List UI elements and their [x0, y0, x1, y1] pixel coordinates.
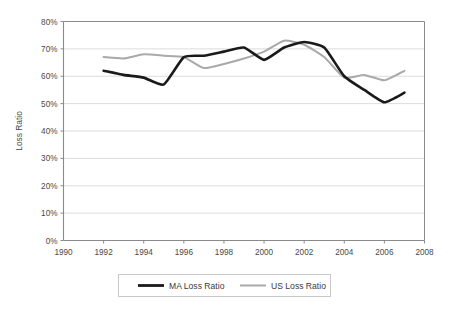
- chart-background: [0, 0, 449, 311]
- x-tick-label: 2004: [335, 248, 354, 257]
- y-tick-label: 20%: [41, 182, 57, 191]
- x-tick-label: 1998: [215, 248, 234, 257]
- y-axis-title-text: Loss Ratio: [14, 111, 24, 151]
- y-tick-label: 60%: [41, 72, 57, 81]
- x-tick-label: 2008: [415, 248, 434, 257]
- legend-label-ma[interactable]: MA Loss Ratio: [169, 281, 225, 291]
- x-tick-label: 1996: [175, 248, 194, 257]
- y-tick-label: 0%: [46, 237, 58, 246]
- x-tick-label: 2002: [295, 248, 314, 257]
- y-tick-label: 30%: [41, 154, 57, 163]
- y-tick-label: 10%: [41, 209, 57, 218]
- x-tick-label: 1992: [95, 248, 114, 257]
- y-axis-title: Loss Ratio: [14, 111, 24, 151]
- loss-ratio-line-chart: 0%10%20%30%40%50%60%70%80% 1990199219941…: [0, 0, 449, 311]
- y-tick-label: 50%: [41, 100, 57, 109]
- x-tick-label: 2000: [255, 248, 274, 257]
- y-tick-label: 40%: [41, 127, 57, 136]
- y-tick-label: 70%: [41, 45, 57, 54]
- legend-label-us[interactable]: US Loss Ratio: [271, 281, 326, 291]
- chart-container: 0%10%20%30%40%50%60%70%80% 1990199219941…: [0, 0, 449, 311]
- y-tick-label: 80%: [41, 18, 57, 27]
- chart-legend[interactable]: MA Loss RatioUS Loss Ratio: [119, 275, 331, 297]
- x-tick-label: 2006: [375, 248, 394, 257]
- x-tick-label: 1990: [54, 248, 73, 257]
- x-tick-label: 1994: [135, 248, 154, 257]
